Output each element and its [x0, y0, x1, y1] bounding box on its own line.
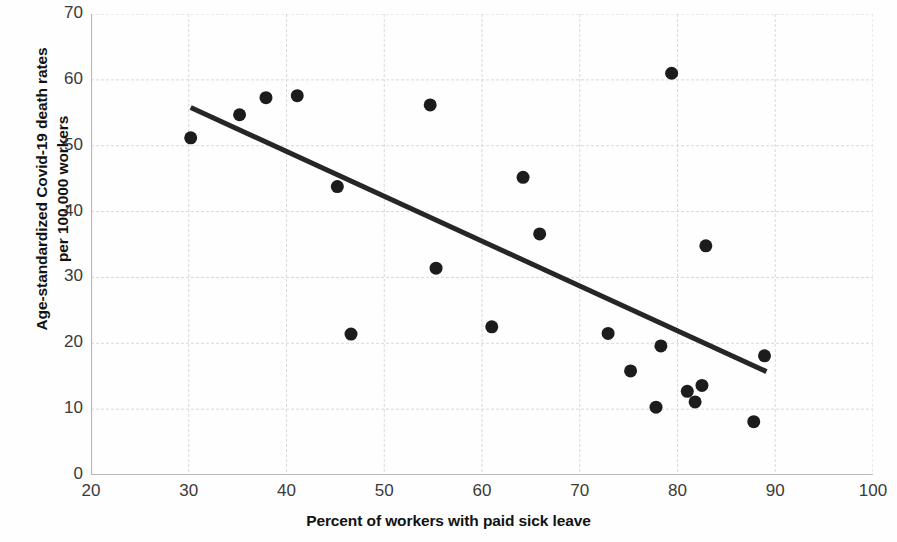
y-tick-label: 60 [43, 69, 83, 89]
data-point [233, 108, 246, 121]
y-tick-label: 30 [43, 266, 83, 286]
x-tick-label: 60 [458, 481, 506, 501]
data-point [259, 91, 272, 104]
data-point [533, 227, 546, 240]
y-tick-label: 20 [43, 332, 83, 352]
data-point [291, 89, 304, 102]
data-point [665, 67, 678, 80]
data-point [345, 328, 358, 341]
x-tick-label: 80 [654, 481, 702, 501]
data-point [331, 180, 344, 193]
scatter-chart: Age-standardized Covid-19 death rates pe… [0, 0, 897, 542]
data-point [649, 401, 662, 414]
plot-area [91, 14, 873, 475]
data-point [681, 385, 694, 398]
x-tick-label: 90 [751, 481, 799, 501]
x-tick-label: 40 [263, 481, 311, 501]
data-point [758, 349, 771, 362]
y-tick-label: 10 [43, 398, 83, 418]
x-tick-label: 70 [556, 481, 604, 501]
x-tick-label: 50 [360, 481, 408, 501]
data-point [517, 171, 530, 184]
y-tick-label: 50 [43, 135, 83, 155]
y-tick-label: 70 [43, 3, 83, 23]
grid-lines [91, 14, 873, 475]
x-tick-label: 20 [67, 481, 115, 501]
data-point [624, 364, 637, 377]
data-point [695, 379, 708, 392]
y-tick-label: 40 [43, 201, 83, 221]
data-point [699, 239, 712, 252]
data-point [602, 327, 615, 340]
trendline [191, 108, 767, 372]
data-point [689, 395, 702, 408]
trendline-segment [191, 108, 767, 372]
x-tick-label: 30 [165, 481, 213, 501]
data-points [184, 67, 771, 428]
data-point [430, 262, 443, 275]
data-point [485, 320, 498, 333]
data-point [654, 339, 667, 352]
data-point [424, 98, 437, 111]
data-point [747, 415, 760, 428]
data-point [184, 131, 197, 144]
plot-svg [91, 14, 873, 475]
x-axis-title: Percent of workers with paid sick leave [0, 512, 897, 530]
x-tick-label: 100 [849, 481, 897, 501]
